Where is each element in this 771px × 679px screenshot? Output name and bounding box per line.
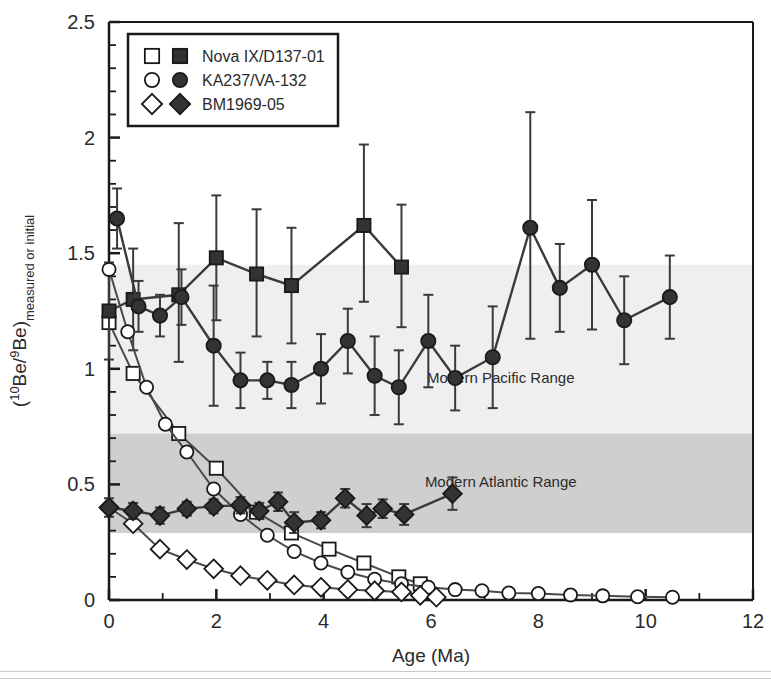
data-point-ka237-va-132-measured <box>564 588 577 601</box>
data-point-ka237-va-132-measured <box>207 482 220 495</box>
data-point-bm1969-05-measured <box>285 576 304 595</box>
data-point-nova-ix-d137-01-measured <box>357 556 370 569</box>
data-point-ka237-va-132-measured <box>140 381 153 394</box>
x-tick-label: 2 <box>211 610 222 632</box>
data-point-ka237-va-132-measured <box>666 591 679 604</box>
data-point-nova-ix-d137-01-initial <box>102 304 115 317</box>
data-point-ka237-va-132-measured <box>121 325 134 338</box>
x-tick-label: 8 <box>533 610 544 632</box>
data-point-ka237-va-132-initial <box>663 290 677 304</box>
data-point-ka237-va-132-initial <box>284 378 298 392</box>
data-point-ka237-va-132-initial <box>207 339 221 353</box>
legend-open-marker-1 <box>145 73 159 87</box>
data-point-ka237-va-132-initial <box>341 334 355 348</box>
y-tick-label: 1 <box>84 358 95 380</box>
data-point-ka237-va-132-measured <box>261 529 274 542</box>
data-point-ka237-va-132-initial <box>585 258 599 272</box>
data-point-ka237-va-132-initial <box>368 369 382 383</box>
legend-label-1: KA237/VA-132 <box>202 72 307 89</box>
data-point-nova-ix-d137-01-measured <box>210 462 223 475</box>
data-point-nova-ix-d137-01-initial <box>395 260 408 273</box>
data-point-bm1969-05-measured <box>177 550 196 569</box>
data-point-ka237-va-132-initial <box>486 350 500 364</box>
y-tick-label: 0 <box>84 589 95 611</box>
data-point-ka237-va-132-initial <box>617 313 631 327</box>
y-tick-label: 2.5 <box>67 11 95 33</box>
data-point-ka237-va-132-measured <box>314 556 327 569</box>
data-point-ka237-va-132-initial <box>392 380 406 394</box>
x-tick-label: 10 <box>635 610 657 632</box>
data-point-ka237-va-132-initial <box>233 373 247 387</box>
data-point-ka237-va-132-initial <box>421 334 435 348</box>
data-point-ka237-va-132-initial <box>553 281 567 295</box>
data-point-ka237-va-132-initial <box>523 221 537 235</box>
x-tick-label: 6 <box>425 610 436 632</box>
data-point-ka237-va-132-measured <box>449 583 462 596</box>
x-tick-label: 0 <box>103 610 114 632</box>
data-point-ka237-va-132-initial <box>448 371 462 385</box>
y-tick-label: 2 <box>84 127 95 149</box>
data-point-ka237-va-132-measured <box>475 584 488 597</box>
legend-open-marker-0 <box>145 49 159 63</box>
data-point-nova-ix-d137-01-measured <box>127 367 140 380</box>
data-point-ka237-va-132-initial <box>314 362 328 376</box>
data-point-ka237-va-132-measured <box>631 590 644 603</box>
data-point-ka237-va-132-measured <box>502 586 515 599</box>
data-point-ka237-va-132-initial <box>110 211 124 225</box>
band-label-atlantic: Modern Atlantic Range <box>425 473 577 490</box>
data-point-bm1969-05-measured <box>231 566 250 585</box>
figure-container: Modern Pacific RangeModern Atlantic Rang… <box>0 0 771 679</box>
legend-label-2: BM1969-05 <box>202 96 285 113</box>
data-point-ka237-va-132-measured <box>532 587 545 600</box>
data-point-ka237-va-132-initial <box>174 290 188 304</box>
legend-filled-marker-0 <box>173 49 187 63</box>
legend-label-0: Nova IX/D137-01 <box>202 48 325 65</box>
data-point-nova-ix-d137-01-measured <box>322 543 335 556</box>
x-axis-title: Age (Ma) <box>392 645 470 666</box>
data-point-nova-ix-d137-01-initial <box>210 251 223 264</box>
y-tick-label: 1.5 <box>67 242 95 264</box>
data-point-nova-ix-d137-01-initial <box>357 219 370 232</box>
x-tick-label: 12 <box>742 610 764 632</box>
data-point-bm1969-05-measured <box>338 580 357 599</box>
data-point-ka237-va-132-measured <box>102 263 115 276</box>
y-tick-label: 0.5 <box>67 473 95 495</box>
x-tick-label: 4 <box>318 610 329 632</box>
data-point-nova-ix-d137-01-initial <box>250 267 263 280</box>
data-point-ka237-va-132-measured <box>159 418 172 431</box>
data-point-nova-ix-d137-01-measured <box>172 427 185 440</box>
data-point-ka237-va-132-measured <box>288 545 301 558</box>
data-point-bm1969-05-measured <box>365 581 384 600</box>
data-point-ka237-va-132-measured <box>180 445 193 458</box>
data-point-ka237-va-132-initial <box>260 373 274 387</box>
data-point-ka237-va-132-measured <box>341 566 354 579</box>
data-point-bm1969-05-measured <box>312 578 331 597</box>
data-point-bm1969-05-measured <box>258 571 277 590</box>
data-point-ka237-va-132-initial <box>153 308 167 322</box>
legend-filled-marker-1 <box>173 73 187 87</box>
data-point-nova-ix-d137-01-initial <box>285 279 298 292</box>
data-point-ka237-va-132-initial <box>131 299 145 313</box>
y-axis-title: (10Be/9Be)measured or initial <box>7 215 37 407</box>
data-point-bm1969-05-measured <box>204 559 223 578</box>
data-point-ka237-va-132-measured <box>596 589 609 602</box>
chart-svg: Modern Pacific RangeModern Atlantic Rang… <box>0 0 771 679</box>
figure-bottom-rule <box>0 671 771 679</box>
